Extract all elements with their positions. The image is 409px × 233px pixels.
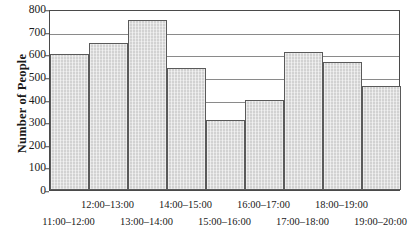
y-tick-label: 600 [0, 50, 46, 62]
bar [284, 52, 323, 190]
x-tick-label: 11:00–12:00 [29, 217, 109, 228]
y-tick-label: 700 [0, 27, 46, 39]
y-tick-mark [45, 10, 49, 11]
bar [323, 62, 362, 190]
y-tick-label: 800 [0, 4, 46, 16]
x-tick-label: 19:00–20:00 [341, 217, 409, 228]
bar [50, 54, 89, 190]
x-tick-label: 16:00–17:00 [224, 200, 304, 211]
x-tick-label: 13:00–14:00 [107, 217, 187, 228]
x-tick-label: 12:00–13:00 [68, 200, 148, 211]
bar-series [50, 11, 399, 190]
bar [362, 86, 401, 190]
bar [128, 20, 167, 190]
x-tick-label: 18:00–19:00 [302, 200, 382, 211]
x-tick-label: 14:00–15:00 [146, 200, 226, 211]
y-tick-label: 300 [0, 117, 46, 129]
y-tick-label: 200 [0, 140, 46, 152]
y-tick-mark [45, 169, 49, 170]
bar-chart: Number of People 01002003004005006007008… [0, 0, 409, 233]
y-tick-mark [45, 33, 49, 34]
y-tick-mark [45, 123, 49, 124]
y-tick-mark [45, 78, 49, 79]
x-axis-labels: 11:00–12:0012:00–13:0013:00–14:0014:00–1… [49, 191, 400, 233]
plot-area [49, 10, 400, 191]
bar [89, 43, 128, 190]
y-tick-label: 400 [0, 95, 46, 107]
x-tick-label: 17:00–18:00 [263, 217, 343, 228]
y-tick-label: 100 [0, 163, 46, 175]
y-tick-mark [45, 146, 49, 147]
x-tick-label: 15:00–16:00 [185, 217, 265, 228]
y-tick-mark [45, 56, 49, 57]
y-tick-label: 0 [0, 185, 46, 197]
bar [167, 68, 206, 190]
y-tick-mark [45, 101, 49, 102]
bar [206, 120, 245, 190]
y-tick-label: 500 [0, 72, 46, 84]
bar [245, 100, 284, 191]
